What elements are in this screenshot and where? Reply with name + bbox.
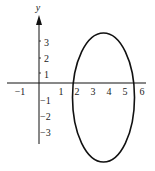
x-tick-label-4: 4 [107,86,112,97]
ellipse-curve [73,33,135,162]
x-tick-label-neg1: −1 [15,86,26,97]
y-tick-label-3: 3 [44,37,49,48]
x-tick-label-2: 2 [75,86,80,97]
x-tick-label-5: 5 [123,86,128,97]
ellipse-plot: y 3 2 1 −1 −2 −3 −1 1 2 3 4 5 6 [0,0,155,171]
y-tick-label-neg1: −1 [40,95,51,106]
y-tick-label-neg3: −3 [40,127,51,138]
x-tick-label-6: 6 [140,86,145,97]
y-axis-arrow-icon [36,15,42,25]
y-axis-label: y [35,2,41,13]
y-tick-label-neg2: −2 [40,111,51,122]
y-tick-label-1: 1 [44,69,49,80]
plot-canvas: y 3 2 1 −1 −2 −3 −1 1 2 3 4 5 6 [0,0,155,171]
y-tick-label-2: 2 [44,53,49,64]
x-tick-label-3: 3 [91,86,96,97]
x-tick-label-1: 1 [59,86,64,97]
